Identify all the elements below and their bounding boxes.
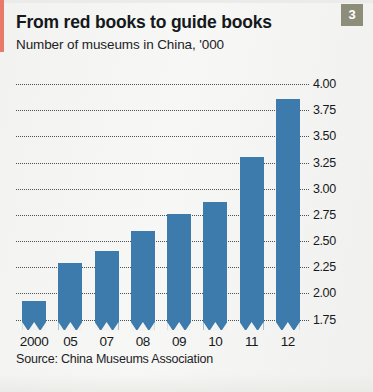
bar[interactable] <box>22 301 46 330</box>
bar-truncation-notch <box>95 322 119 331</box>
gridline <box>16 189 309 190</box>
x-axis-tick-label: 11 <box>245 334 258 349</box>
bar-truncation-notch <box>131 322 155 331</box>
x-axis-tick-label: 09 <box>172 334 186 349</box>
y-axis-tick-label: 3.50 <box>313 129 336 143</box>
x-axis-tick-label: 12 <box>281 334 295 349</box>
bar-truncation-notch <box>58 322 82 331</box>
bar[interactable] <box>240 157 264 330</box>
y-axis-tick-label: 3.25 <box>313 156 336 170</box>
y-axis-tick-label: 2.00 <box>313 286 336 300</box>
gridline <box>16 136 309 137</box>
gridline <box>16 163 309 164</box>
bar-truncation-notch <box>22 322 46 331</box>
plot-area: 4.003.753.503.253.002.752.502.252.001.75… <box>16 80 306 330</box>
y-axis-tick-label: 4.00 <box>313 77 336 91</box>
bar-truncation-notch <box>276 322 300 331</box>
gridline <box>16 241 309 242</box>
y-axis-tick-label: 3.75 <box>313 103 336 117</box>
top-hairline <box>0 0 373 3</box>
chart-title: From red books to guide books <box>16 12 272 33</box>
bar[interactable] <box>276 99 300 330</box>
x-axis-tick-label: 07 <box>99 334 113 349</box>
chart-subtitle: Number of museums in China, '000 <box>16 37 224 52</box>
bar-truncation-notch <box>167 322 191 331</box>
y-axis-tick-label: 2.25 <box>313 260 336 274</box>
bar[interactable] <box>95 251 119 330</box>
y-axis-tick-label: 1.75 <box>313 313 336 327</box>
x-axis-tick-label: 2000 <box>20 334 49 349</box>
bar[interactable] <box>58 263 82 330</box>
left-accent-rule <box>0 0 4 52</box>
x-axis-tick-label: 05 <box>63 334 77 349</box>
page-bottom-shading <box>0 374 373 392</box>
bar[interactable] <box>131 231 155 330</box>
chart-number-badge: 3 <box>341 4 363 26</box>
bar[interactable] <box>167 214 191 330</box>
bar-truncation-notch <box>203 322 227 331</box>
bar-truncation-notch <box>240 322 264 331</box>
x-axis-tick-label: 08 <box>136 334 150 349</box>
gridline <box>16 84 309 85</box>
y-axis-tick-label: 2.75 <box>313 208 336 222</box>
y-axis-tick-label: 2.50 <box>313 234 336 248</box>
gridline <box>16 215 309 216</box>
bar[interactable] <box>203 202 227 330</box>
x-axis-tick-label: 10 <box>208 334 222 349</box>
source-note: Source: China Museums Association <box>16 352 213 366</box>
chart-page: 3 From red books to guide books Number o… <box>0 0 373 392</box>
gridline <box>16 110 309 111</box>
y-axis-tick-label: 3.00 <box>313 182 336 196</box>
